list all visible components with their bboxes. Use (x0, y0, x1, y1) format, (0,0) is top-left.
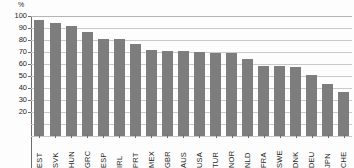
bar-GRC[interactable] (82, 32, 93, 136)
x-label-slot: TUR (208, 138, 224, 168)
bar-slot (240, 16, 256, 136)
bar-slot (336, 16, 352, 136)
x-label-slot: SVK (47, 138, 63, 168)
y-tick-label-90: 90 (19, 24, 27, 32)
x-tick-label-JPN: JPN (323, 138, 332, 168)
bar-MEX[interactable] (146, 50, 157, 136)
x-tick-label-GBR: GBR (163, 138, 172, 168)
bar-TUR[interactable] (210, 53, 221, 136)
x-label-slot: PRT (127, 138, 143, 168)
y-tick-label-20: 20 (19, 108, 27, 116)
x-tick-label-MEX: MEX (147, 138, 156, 168)
x-label-slot: AUS (175, 138, 191, 168)
x-label-slot: IRL (111, 138, 127, 168)
bar-slot (191, 16, 207, 136)
y-tick-label-100: 100 (14, 12, 27, 20)
bar-slot (288, 16, 304, 136)
bar-USA[interactable] (194, 52, 205, 136)
bar-slot (31, 16, 47, 136)
bar-slot (175, 16, 191, 136)
y-tick-label-40: 40 (19, 84, 27, 92)
x-label-slot: NLD (240, 138, 256, 168)
bar-DNK[interactable] (290, 67, 301, 136)
x-tick-label-GRC: GRC (83, 138, 92, 168)
x-tick-label-DEU: DEU (307, 138, 316, 168)
bar-ESP[interactable] (98, 39, 109, 136)
bar-HUN[interactable] (66, 26, 77, 136)
bar-AUS[interactable] (178, 51, 189, 136)
y-axis-ticks: 1009080706050403020 (0, 16, 31, 168)
bar-series (31, 16, 352, 136)
x-label-slot: NOR (224, 138, 240, 168)
x-tick-label-PRT: PRT (131, 138, 140, 168)
bar-IRL[interactable] (114, 39, 125, 136)
bar-slot (272, 16, 288, 136)
bar-slot (320, 16, 336, 136)
x-tick-label-USA: USA (195, 138, 204, 168)
x-label-slot: GRC (79, 138, 95, 168)
bar-CHE[interactable] (338, 92, 349, 136)
gridline-0 (31, 136, 352, 137)
bar-slot (143, 16, 159, 136)
bar-slot (111, 16, 127, 136)
bar-SWE[interactable] (274, 66, 285, 136)
bar-slot (224, 16, 240, 136)
x-tick-label-SWE: SWE (275, 138, 284, 168)
plot-area (31, 16, 352, 136)
x-label-slot: HUN (63, 138, 79, 168)
bar-slot (208, 16, 224, 136)
bar-PRT[interactable] (130, 44, 141, 136)
x-label-slot: MEX (143, 138, 159, 168)
bar-GBR[interactable] (162, 51, 173, 136)
y-tick-label-70: 70 (19, 48, 27, 56)
bar-slot (159, 16, 175, 136)
x-label-slot: FRA (256, 138, 272, 168)
y-tick-label-50: 50 (19, 72, 27, 80)
x-tick-label-SVK: SVK (51, 138, 60, 168)
y-axis-unit-label: % (18, 1, 24, 9)
y-tick-label-30: 30 (19, 96, 27, 104)
bar-NLD[interactable] (242, 59, 253, 136)
x-axis-labels: ESTSVKHUNGRCESPIRLPRTMEXGBRAUSUSATURNORN… (31, 138, 352, 168)
x-tick-label-ESP: ESP (99, 138, 108, 168)
y-tick-label-80: 80 (19, 36, 27, 44)
bar-JPN[interactable] (322, 84, 333, 136)
x-label-slot: DEU (304, 138, 320, 168)
x-label-slot: EST (31, 138, 47, 168)
x-label-slot: DNK (288, 138, 304, 168)
bar-slot (256, 16, 272, 136)
bar-slot (79, 16, 95, 136)
x-tick-label-DNK: DNK (291, 138, 300, 168)
x-tick-label-NLD: NLD (243, 138, 252, 168)
x-label-slot: ESP (95, 138, 111, 168)
x-label-slot: CHE (336, 138, 352, 168)
x-tick-label-EST: EST (35, 138, 44, 168)
bar-chart: % 1009080706050403020 ESTSVKHUNGRCESPIRL… (0, 0, 354, 168)
x-tick-label-IRL: IRL (115, 138, 124, 168)
y-tick-label-60: 60 (19, 60, 27, 68)
x-label-slot: GBR (159, 138, 175, 168)
x-tick-label-NOR: NOR (227, 138, 236, 168)
bar-slot (304, 16, 320, 136)
bar-NOR[interactable] (226, 53, 237, 136)
x-label-slot: SWE (272, 138, 288, 168)
bar-EST[interactable] (34, 20, 45, 136)
bar-slot (95, 16, 111, 136)
bar-FRA[interactable] (258, 66, 269, 136)
x-tick-label-AUS: AUS (179, 138, 188, 168)
x-tick-label-HUN: HUN (67, 138, 76, 168)
x-label-slot: JPN (320, 138, 336, 168)
bar-DEU[interactable] (306, 75, 317, 136)
x-label-slot: USA (191, 138, 207, 168)
x-tick-label-CHE: CHE (339, 138, 348, 168)
bar-SVK[interactable] (50, 23, 61, 136)
bar-slot (127, 16, 143, 136)
x-tick-label-FRA: FRA (259, 138, 268, 168)
bar-slot (63, 16, 79, 136)
x-tick-label-TUR: TUR (211, 138, 220, 168)
bar-slot (47, 16, 63, 136)
